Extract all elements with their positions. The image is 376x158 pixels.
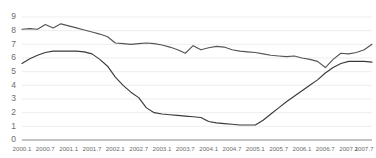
- y-tick-label: 3: [11, 93, 16, 103]
- x-tick-label: 2002.1: [106, 145, 125, 152]
- line-chart: 0123456789 2000.12000.72001.12001.72002.…: [0, 0, 376, 158]
- y-tick-label: 1: [11, 121, 16, 131]
- y-tick-label: 7: [11, 39, 16, 49]
- x-tick-label: 2001.7: [83, 145, 102, 152]
- y-tick-label: 8: [11, 25, 16, 35]
- y-tick-label: 5: [11, 66, 16, 76]
- data-series-group: [22, 24, 372, 125]
- x-tick-label: 2001.1: [59, 145, 78, 152]
- x-tick-label: 2005.1: [246, 145, 265, 152]
- x-tick-label: 2003.1: [153, 145, 172, 152]
- y-tick-label: 4: [11, 80, 16, 90]
- x-tick-label: 2002.7: [129, 145, 148, 152]
- y-tick-label: 0: [11, 134, 16, 144]
- y-tick-label: 9: [11, 11, 16, 21]
- x-tick-label: 2003.7: [176, 145, 195, 152]
- y-axis-tick-labels: 0123456789: [11, 11, 16, 144]
- x-tick-label: 2005.7: [269, 145, 288, 152]
- y-tick-label: 2: [11, 107, 16, 117]
- x-tick-label: 2006.1: [293, 145, 312, 152]
- x-axis-tick-labels: 2000.12000.72001.12001.72002.12002.72003…: [13, 145, 374, 152]
- chart-plot-area: 0123456789 2000.12000.72001.12001.72002.…: [0, 0, 376, 158]
- x-tick-label: 2006.7: [316, 145, 335, 152]
- x-tick-label: 2007.7: [355, 145, 374, 152]
- x-tick-label: 2000.1: [13, 145, 32, 152]
- x-tick-label: 2000.7: [36, 145, 55, 152]
- x-tick-label: 2004.7: [223, 145, 242, 152]
- y-tick-label: 6: [11, 52, 16, 62]
- x-tick-label: 2004.1: [199, 145, 218, 152]
